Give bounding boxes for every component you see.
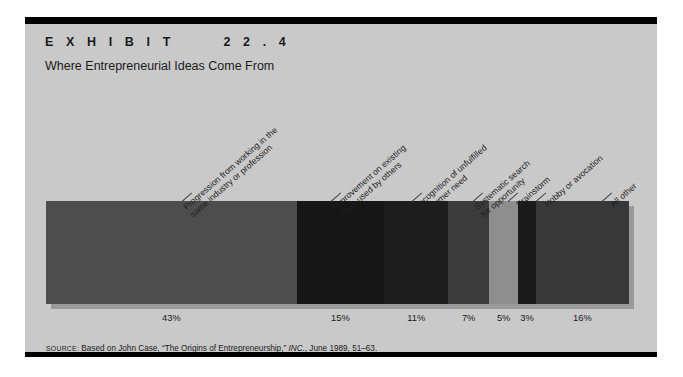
bar-segment: [489, 201, 518, 304]
segment-value-label: 7%: [462, 313, 475, 323]
bar-segment: [518, 201, 535, 304]
segment-value-label: 43%: [162, 313, 181, 323]
bottom-rule-divider: [25, 352, 657, 357]
bar-segment: [384, 201, 448, 304]
segment-value-label: 3%: [520, 313, 533, 323]
exhibit-panel: E X H I B I T 2 2 . 4 Where Entrepreneur…: [25, 17, 657, 357]
source-prefix: SOURCE:: [46, 345, 79, 352]
bar-segment: [46, 201, 297, 304]
stacked-bar-track: [46, 201, 629, 304]
bar-segment: [536, 201, 629, 304]
segment-value-label: 5%: [497, 313, 510, 323]
stacked-bar-chart: Progression from working in thesame indu…: [25, 17, 657, 357]
callout-line: Progression from working in the: [181, 125, 279, 212]
segment-value-label: 16%: [573, 313, 592, 323]
segment-value-label: 15%: [331, 313, 350, 323]
segment-value-label: 11%: [407, 313, 425, 323]
